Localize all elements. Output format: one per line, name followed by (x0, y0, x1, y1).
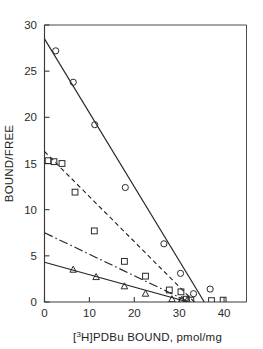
series-2-square (45, 151, 227, 303)
y-tick-label: 15 (24, 158, 37, 170)
y-axis-title: BOUND/FREE (3, 125, 15, 203)
series-1-circle (45, 39, 214, 302)
data-point-square (45, 158, 51, 164)
data-point-circle (177, 270, 183, 276)
x-axis-title: [3H]PDBu BOUND, pmol/mg (73, 330, 222, 343)
plot-axes (45, 25, 247, 302)
fit-line-dashed (45, 151, 195, 302)
data-point-circle (190, 291, 196, 297)
x-tick-label: 20 (128, 307, 141, 319)
data-point-circle (53, 48, 59, 54)
y-tick-label: 20 (24, 111, 37, 123)
x-tick-label: 30 (173, 307, 186, 319)
y-tick-label: 0 (31, 296, 37, 308)
fit-line-solid (45, 39, 205, 302)
y-tick-label: 5 (31, 250, 37, 262)
data-point-square (209, 298, 215, 304)
fit-line-solid (45, 262, 189, 302)
x-tick-label: 10 (83, 307, 96, 319)
data-point-circle (122, 184, 128, 190)
data-point-circle (207, 286, 213, 292)
plot-frame (45, 25, 247, 302)
series-4-triangle (45, 262, 191, 302)
x-tick-label: 40 (218, 307, 231, 319)
plot-canvas: 051015202530010203040BOUND/FREE[3H]PDBu … (0, 0, 263, 349)
data-point-square (143, 273, 149, 279)
data-point-square (59, 161, 65, 167)
y-tick-label: 10 (24, 204, 37, 216)
x-tick-label: 0 (41, 307, 47, 319)
scatchard-plot-figure: 051015202530010203040BOUND/FREE[3H]PDBu … (0, 0, 263, 349)
data-point-square (122, 258, 128, 264)
y-tick-label: 30 (24, 19, 37, 31)
data-point-circle (161, 241, 167, 247)
data-point-square (72, 189, 78, 195)
data-point-square (91, 228, 97, 234)
y-tick-label: 25 (24, 65, 37, 77)
